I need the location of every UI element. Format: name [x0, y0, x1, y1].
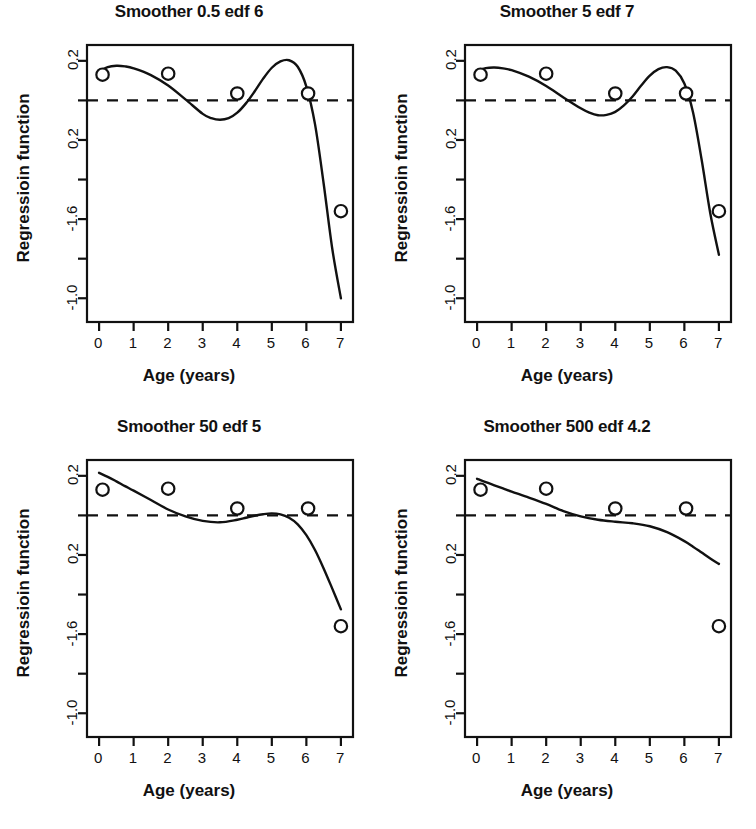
plot-svg	[464, 459, 732, 738]
y-tick-label: -1.6	[441, 205, 458, 231]
x-tick-label: 4	[610, 334, 618, 351]
y-tick-label: 0.2	[63, 464, 80, 485]
y-tick-label: 0.2	[63, 129, 80, 150]
x-tick-label: 4	[232, 749, 240, 766]
x-tick-label: 5	[645, 749, 653, 766]
data-point-marker	[609, 502, 621, 514]
y-tick-label: 0.2	[441, 544, 458, 565]
data-point-marker	[335, 205, 347, 217]
data-point-marker	[680, 87, 692, 99]
x-tick-label: 2	[541, 334, 549, 351]
data-point-marker	[96, 483, 108, 495]
data-point-marker	[609, 87, 621, 99]
y-axis-label: Regressioin function	[14, 483, 34, 703]
data-point-marker	[335, 620, 347, 632]
x-tick-label: 2	[163, 334, 171, 351]
x-tick-label: 7	[336, 334, 344, 351]
x-tick-label: 3	[198, 749, 206, 766]
x-axis-label: Age (years)	[378, 781, 756, 801]
data-point-marker	[713, 205, 725, 217]
x-tick-label: 6	[301, 749, 309, 766]
y-axis-label: Regressioin function	[392, 483, 412, 703]
data-point-marker	[96, 68, 108, 80]
x-tick-label: 1	[129, 749, 137, 766]
x-tick-label: 6	[679, 749, 687, 766]
y-tick-label: -1.6	[63, 620, 80, 646]
data-point-marker	[231, 502, 243, 514]
plot-frame	[465, 460, 731, 737]
x-tick-label: 6	[301, 334, 309, 351]
y-tick-label: 0.2	[441, 464, 458, 485]
y-tick-label: -1.0	[441, 699, 458, 725]
plot-frame	[87, 45, 353, 322]
data-point-marker	[680, 502, 692, 514]
x-tick-label: 6	[679, 334, 687, 351]
y-tick-label: -1.0	[63, 699, 80, 725]
y-tick-label: -1.6	[441, 620, 458, 646]
data-point-marker	[540, 67, 552, 79]
x-tick-label: 3	[198, 334, 206, 351]
data-points	[474, 482, 725, 632]
chart-panel-1: Smoother 0.5 edf 6 Regressioin function …	[0, 0, 378, 414]
x-tick-label: 5	[267, 749, 275, 766]
x-tick-label: 5	[645, 334, 653, 351]
plot-area: 0.20.2-1.6-1.001234567	[464, 459, 730, 736]
chart-panel-3: Smoother 50 edf 5 Regressioin function 0…	[0, 415, 378, 829]
x-tick-label: 4	[232, 334, 240, 351]
x-tick-label: 4	[610, 749, 618, 766]
x-tick-label: 0	[94, 334, 102, 351]
data-point-marker	[713, 620, 725, 632]
x-tick-label: 0	[472, 334, 480, 351]
x-tick-label: 7	[714, 749, 722, 766]
y-tick-label: 0.2	[441, 129, 458, 150]
y-axis-label: Regressioin function	[14, 68, 34, 288]
data-point-marker	[162, 67, 174, 79]
x-tick-label: 0	[94, 749, 102, 766]
x-tick-label: 1	[129, 334, 137, 351]
panel-title: Smoother 500 edf 4.2	[378, 417, 756, 437]
plot-area: 0.20.2-1.6-1.001234567	[86, 459, 352, 736]
data-points	[96, 67, 347, 217]
y-tick-label: 0.2	[63, 544, 80, 565]
x-tick-label: 2	[541, 749, 549, 766]
plot-frame	[465, 45, 731, 322]
plot-frame	[87, 460, 353, 737]
x-tick-label: 3	[576, 749, 584, 766]
x-tick-label: 1	[507, 334, 515, 351]
plot-svg	[86, 44, 354, 323]
x-tick-label: 7	[714, 334, 722, 351]
x-tick-label: 3	[576, 334, 584, 351]
x-tick-label: 7	[336, 749, 344, 766]
data-points	[474, 67, 725, 217]
plot-area: 0.20.2-1.6-1.001234567	[464, 44, 730, 321]
chart-panel-2: Smoother 5 edf 7 Regressioin function 0.…	[378, 0, 756, 414]
smoother-curve	[99, 473, 341, 610]
plot-svg	[86, 459, 354, 738]
x-axis-label: Age (years)	[378, 366, 756, 386]
data-point-marker	[162, 482, 174, 494]
panel-title: Smoother 5 edf 7	[378, 2, 756, 22]
chart-panel-4: Smoother 500 edf 4.2 Regressioin functio…	[378, 415, 756, 829]
panel-title: Smoother 0.5 edf 6	[0, 2, 378, 22]
y-tick-label: -1.0	[63, 284, 80, 310]
data-point-marker	[474, 68, 486, 80]
x-axis-label: Age (years)	[0, 366, 378, 386]
data-point-marker	[231, 87, 243, 99]
smoother-curve	[477, 479, 719, 564]
data-point-marker	[302, 87, 314, 99]
x-tick-label: 0	[472, 749, 480, 766]
data-points	[96, 482, 347, 632]
y-tick-label: -1.0	[441, 284, 458, 310]
y-tick-label: -1.6	[63, 205, 80, 231]
x-tick-label: 2	[163, 749, 171, 766]
plot-svg	[464, 44, 732, 323]
data-point-marker	[474, 483, 486, 495]
y-tick-label: 0.2	[63, 49, 80, 70]
plot-area: 0.20.2-1.6-1.001234567	[86, 44, 352, 321]
x-tick-label: 5	[267, 334, 275, 351]
figure-canvas: Smoother 0.5 edf 6 Regressioin function …	[0, 0, 756, 829]
data-point-marker	[302, 502, 314, 514]
y-tick-label: 0.2	[441, 49, 458, 70]
data-point-marker	[540, 482, 552, 494]
x-axis-label: Age (years)	[0, 781, 378, 801]
